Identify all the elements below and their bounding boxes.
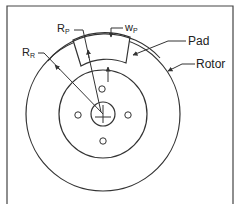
rotor-pad-diagram: RR RP wP Pad Rotor [0,0,240,204]
bolt-hole-top [99,86,105,92]
rotor-leader-line [168,64,195,71]
rr-arrow [55,65,60,70]
rotor-label: Rotor [196,57,225,71]
rr-label: RR [22,46,35,59]
bolt-hole-left [75,112,81,118]
bolt-hole-right [125,112,131,118]
pad-label: Pad [188,34,209,48]
wp-label: wP [124,21,138,34]
rp-label: RP [57,22,70,35]
rr-leader-line [44,53,103,114]
bolt-hole-bottom [100,138,106,144]
